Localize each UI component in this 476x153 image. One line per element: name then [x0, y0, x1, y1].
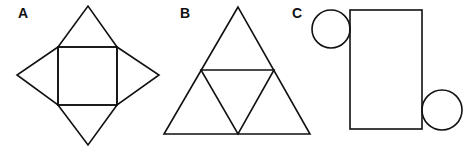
- figure-a-label: A: [18, 5, 28, 21]
- rectangle-lateral-face: [350, 10, 422, 129]
- inner-triangle: [201, 70, 274, 134]
- figure-a: A: [17, 5, 159, 145]
- square-base: [58, 47, 117, 105]
- triangle-left: [17, 47, 58, 105]
- figure-c-label: C: [292, 5, 302, 21]
- figure-c: C: [292, 5, 462, 130]
- circle-bottom: [422, 90, 462, 130]
- circle-top: [312, 10, 350, 48]
- figure-b-label: B: [180, 5, 190, 21]
- triangle-bottom: [58, 105, 117, 145]
- geometry-nets-diagram: A B C: [0, 0, 476, 153]
- triangle-right: [117, 47, 159, 105]
- triangle-top: [58, 6, 117, 47]
- figure-b: B: [164, 5, 310, 134]
